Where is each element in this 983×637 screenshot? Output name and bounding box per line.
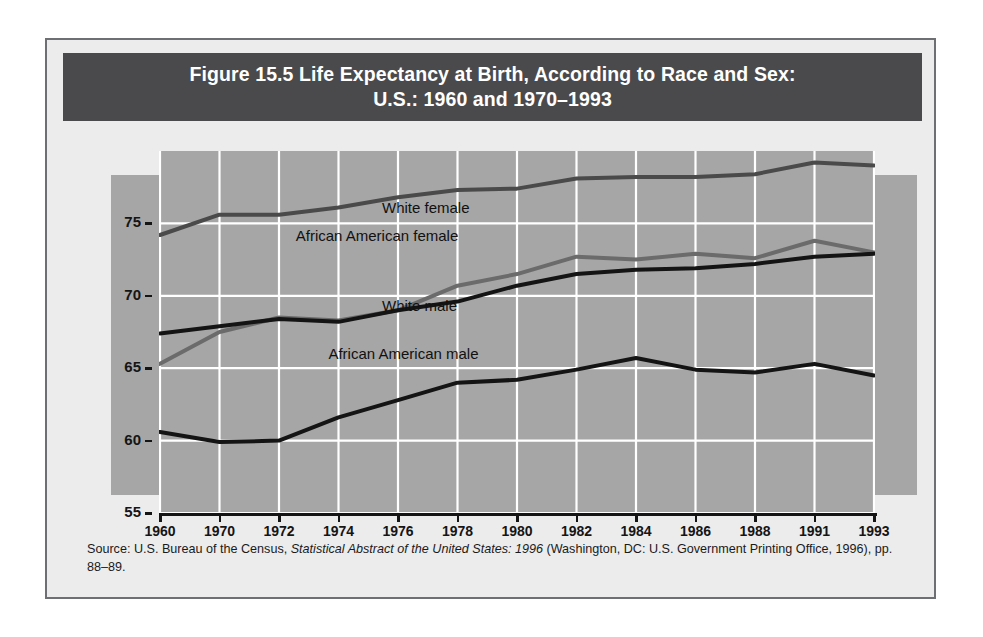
x-tick-label: 1984	[609, 523, 663, 539]
x-tick-label: 1970	[193, 523, 247, 539]
y-tick-label: 75	[97, 213, 141, 230]
right-gray-band	[875, 175, 917, 495]
x-tick-mark	[457, 515, 460, 522]
y-tick-mark	[145, 222, 152, 225]
x-tick-mark	[516, 515, 519, 522]
source-caption: Source: U.S. Bureau of the Census, Stati…	[87, 540, 897, 577]
source-prefix: Source: U.S. Bureau of the Census,	[87, 542, 291, 556]
figure-title-line1: Figure 15.5 Life Expectancy at Birth, Ac…	[189, 63, 795, 85]
x-tick-mark	[814, 515, 817, 522]
figure-title-line2: U.S.: 1960 and 1970–1993	[373, 88, 612, 110]
x-tick-mark	[159, 515, 162, 522]
y-tick-label: 70	[97, 286, 141, 303]
figure-title-band: Figure 15.5 Life Expectancy at Birth, Ac…	[63, 53, 922, 121]
x-tick-mark	[278, 515, 281, 522]
x-tick-mark	[397, 515, 400, 522]
source-italic-title: Statistical Abstract of the United State…	[291, 542, 543, 556]
x-tick-label: 1980	[490, 523, 544, 539]
y-tick-mark	[145, 440, 152, 443]
x-tick-label: 1960	[133, 523, 187, 539]
x-tick-label: 1991	[788, 523, 842, 539]
x-tick-mark	[576, 515, 579, 522]
figure-frame: Figure 15.5 Life Expectancy at Birth, Ac…	[45, 38, 936, 599]
plot-area	[159, 151, 875, 513]
x-tick-label: 1972	[252, 523, 306, 539]
figure-title: Figure 15.5 Life Expectancy at Birth, Ac…	[189, 62, 795, 113]
y-tick-mark	[145, 367, 152, 370]
y-tick-label: 55	[97, 503, 141, 520]
x-tick-label: 1993	[847, 523, 901, 539]
chart-area: Expected age 5560657075 1960197019721974…	[63, 135, 922, 535]
x-tick-mark	[754, 515, 757, 522]
gridlines	[159, 151, 875, 513]
x-tick-mark	[219, 515, 222, 522]
series-label-african-american-male: African American male	[328, 345, 478, 362]
x-tick-mark	[338, 515, 341, 522]
series-label-african-american-female: African American female	[296, 227, 459, 244]
x-tick-label: 1982	[550, 523, 604, 539]
chart-svg	[159, 151, 875, 513]
y-tick-label: 60	[97, 431, 141, 448]
x-tick-mark	[695, 515, 698, 522]
x-tick-label: 1978	[431, 523, 485, 539]
y-tick-mark	[145, 512, 152, 515]
x-tick-mark	[635, 515, 638, 522]
y-tick-mark	[145, 295, 152, 298]
x-tick-label: 1976	[371, 523, 425, 539]
x-tick-mark	[873, 515, 876, 522]
x-tick-label: 1974	[312, 523, 366, 539]
x-tick-label: 1988	[728, 523, 782, 539]
series-label-white-female: White female	[382, 199, 470, 216]
y-tick-label: 65	[97, 358, 141, 375]
series-label-white-male: White male	[382, 297, 457, 314]
x-tick-label: 1986	[669, 523, 723, 539]
